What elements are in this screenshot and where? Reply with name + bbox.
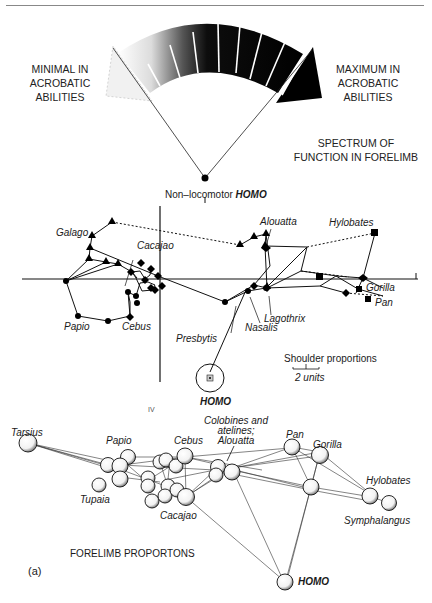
label-cacajao-forelimb: Cacajao xyxy=(160,510,197,522)
label-homo-shoulder: HOMO xyxy=(200,396,231,408)
pivot-label-prefix: Non–locomotor xyxy=(165,189,236,200)
label-tarsius: Tarsius xyxy=(11,427,43,439)
panel-label: (a) xyxy=(28,565,41,577)
label-symphalangus: Symphalangus xyxy=(344,515,410,527)
caption-line: ACROBATIC xyxy=(20,76,100,90)
maximum-acrobatic-caption: MAXIMUM IN ACROBATIC ABILITIES xyxy=(328,62,408,104)
caption-line: ABILITIES xyxy=(20,90,100,104)
axis-tick-label: IV xyxy=(148,404,155,416)
pivot-label: Non–locomotor HOMO xyxy=(165,189,267,201)
label-galago: Galago xyxy=(56,227,88,239)
caption-line: ABILITIES xyxy=(328,90,408,104)
caption-line: MAXIMUM IN xyxy=(328,62,408,76)
label-hylobates-forelimb: Hylobates xyxy=(366,475,410,487)
minimal-acrobatic-caption: MINIMAL IN ACROBATIC ABILITIES xyxy=(20,62,100,104)
scale-units: 2 units xyxy=(295,372,324,384)
label-pan-shoulder: Pan xyxy=(375,297,393,309)
label-line: Alouatta xyxy=(202,436,270,446)
label-presbytis: Presbytis xyxy=(176,333,217,345)
label-papio-shoulder: Papio xyxy=(64,321,90,333)
label-alouatta-shoulder: Alouatta xyxy=(260,216,297,228)
caption-line: MINIMAL IN xyxy=(20,62,100,76)
title-line: SPECTRUM OF xyxy=(286,136,426,150)
spectrum-title: SPECTRUM OF FUNCTION IN FORELIMB xyxy=(286,136,426,164)
pivot-label-homo: HOMO xyxy=(236,189,267,200)
label-gorilla-shoulder: Gorilla xyxy=(366,282,395,294)
label-papio-forelimb: Papio xyxy=(106,435,132,447)
forelimb-title: FORELIMB PROPORTONS xyxy=(70,548,195,560)
title-line: FUNCTION IN FORELIMB xyxy=(286,150,426,164)
scale-title: Shoulder proportions xyxy=(284,353,377,365)
label-tupaia: Tupaia xyxy=(80,494,110,506)
label-homo-forelimb: HOMO xyxy=(298,576,329,588)
label-cebus-forelimb: Cebus xyxy=(174,435,203,447)
label-cebus-shoulder: Cebus xyxy=(122,321,151,333)
forelimb-nodes xyxy=(19,434,397,590)
label-hylobates-shoulder: Hylobates xyxy=(329,217,373,229)
label-colobines-atelines: Colobines and atelines; Alouatta xyxy=(202,416,270,446)
label-gorilla-forelimb: Gorilla xyxy=(313,439,342,451)
label-cacajao-shoulder: Cacajao xyxy=(137,240,174,252)
label-nasalis: Nasalis xyxy=(245,322,278,334)
label-pan-forelimb: Pan xyxy=(286,429,304,441)
caption-line: ACROBATIC xyxy=(328,76,408,90)
